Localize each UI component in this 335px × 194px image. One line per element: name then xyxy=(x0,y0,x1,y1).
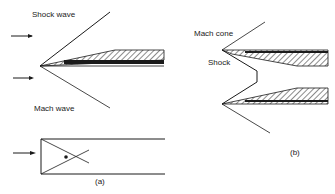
label-shock-wave: Shock wave xyxy=(32,10,75,19)
point-marker xyxy=(64,155,68,159)
label-mach-cone: Mach cone xyxy=(194,29,233,38)
panel-a-duct xyxy=(13,139,165,174)
diagram-canvas xyxy=(0,0,335,194)
mach-cone-line xyxy=(222,104,270,133)
wedge-base xyxy=(64,60,164,64)
caption-a: (a) xyxy=(95,177,105,186)
label-mach-wave: Mach wave xyxy=(34,104,74,113)
panel-a-wedge xyxy=(11,12,164,108)
panel-b-inlet xyxy=(222,22,328,133)
mach-wave-line xyxy=(40,66,110,108)
caption-b: (b) xyxy=(290,148,300,157)
label-shock: Shock xyxy=(208,58,230,67)
